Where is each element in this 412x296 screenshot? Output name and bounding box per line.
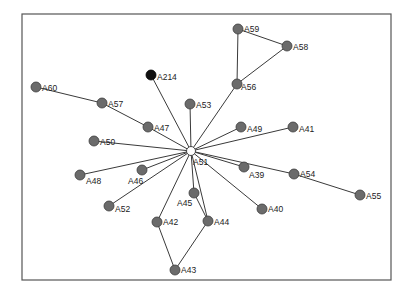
node-a44-circle-icon <box>203 216 213 226</box>
node-label-a57: A57 <box>108 99 123 109</box>
node-a58-circle-icon <box>282 41 292 51</box>
node-label-a43: A43 <box>181 265 196 275</box>
node-a59-circle-icon <box>233 24 243 34</box>
node-label-a41: A41 <box>299 124 314 134</box>
node-label-a52: A52 <box>115 204 130 214</box>
node-a40-circle-icon <box>257 204 267 214</box>
node-a45-circle-icon <box>189 188 199 198</box>
node-a54-circle-icon <box>289 169 299 179</box>
node-a60-circle-icon <box>31 82 41 92</box>
node-label-a42: A42 <box>163 217 178 227</box>
node-a48-circle-icon <box>75 170 85 180</box>
network-diagram: A51A214A60A57A47A53A50A48A46A52A42A43A45… <box>0 0 412 296</box>
node-a52-circle-icon <box>104 201 114 211</box>
node-label-a50: A50 <box>100 137 115 147</box>
node-label-a55: A55 <box>366 191 381 201</box>
node-a39-circle-icon <box>239 162 249 172</box>
node-a55-circle-icon <box>355 190 365 200</box>
node-label-a58: A58 <box>293 42 308 52</box>
node-label-a40: A40 <box>268 204 283 214</box>
node-a57-circle-icon <box>97 98 107 108</box>
node-a50-circle-icon <box>89 136 99 146</box>
node-label-a214: A214 <box>157 72 177 82</box>
node-label-a54: A54 <box>300 169 315 179</box>
node-a47-circle-icon <box>143 122 153 132</box>
node-label-a59: A59 <box>244 24 259 34</box>
node-label-a53: A53 <box>196 100 211 110</box>
node-label-a39: A39 <box>249 170 264 180</box>
node-label-a48: A48 <box>86 176 101 186</box>
node-label-a45: A45 <box>177 198 192 208</box>
node-label-a46: A46 <box>128 176 143 186</box>
node-a214-circle-icon <box>146 70 156 80</box>
node-a43-circle-icon <box>170 265 180 275</box>
node-a41-circle-icon <box>288 122 298 132</box>
node-label-a47: A47 <box>154 123 169 133</box>
node-label-a51: A51 <box>193 157 208 167</box>
node-label-a49: A49 <box>247 124 262 134</box>
node-label-a44: A44 <box>214 217 229 227</box>
node-a49-circle-icon <box>236 122 246 132</box>
node-label-a56: A56 <box>241 82 256 92</box>
node-a46-circle-icon <box>137 165 147 175</box>
node-a53-circle-icon <box>185 99 195 109</box>
node-a51-circle-icon <box>187 147 196 156</box>
node-a42-circle-icon <box>152 217 162 227</box>
node-label-a60: A60 <box>42 83 57 93</box>
